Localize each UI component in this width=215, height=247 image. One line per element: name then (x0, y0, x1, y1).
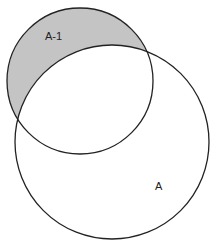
venn-diagram: A-1 A (0, 0, 215, 247)
label-a-1: A-1 (45, 30, 62, 42)
label-a: A (155, 180, 163, 192)
shaded-region-a-minus-1 (7, 8, 153, 154)
